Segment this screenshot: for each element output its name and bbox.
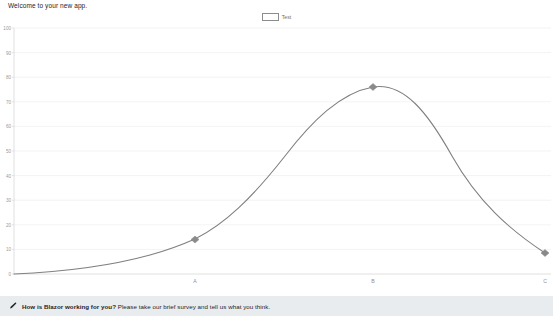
svg-text:80: 80 xyxy=(6,75,12,80)
svg-text:50: 50 xyxy=(6,149,12,154)
chart-data-markers[interactable] xyxy=(191,84,549,257)
survey-question: How is Blazor working for you? xyxy=(22,303,116,310)
survey-text: How is Blazor working for you? Please ta… xyxy=(22,303,270,310)
svg-text:20: 20 xyxy=(6,223,12,228)
svg-text:90: 90 xyxy=(6,51,12,56)
line-chart: Test 100 90 80 70 60 50 40 xyxy=(0,8,553,292)
svg-text:B: B xyxy=(371,278,375,284)
svg-text:A: A xyxy=(193,278,197,284)
chart-x-tick-labels: A B C xyxy=(193,278,547,284)
survey-banner[interactable]: How is Blazor working for you? Please ta… xyxy=(0,296,553,316)
svg-text:70: 70 xyxy=(6,100,12,105)
survey-description: Please take our brief survey and tell us… xyxy=(116,303,270,310)
chart-plot-area: 100 90 80 70 60 50 40 30 20 10 0 xyxy=(0,8,553,292)
svg-text:40: 40 xyxy=(6,174,12,179)
pencil-icon xyxy=(9,302,17,310)
svg-text:0: 0 xyxy=(8,272,11,277)
svg-text:100: 100 xyxy=(3,26,11,31)
svg-text:30: 30 xyxy=(6,198,12,203)
chart-y-tick-labels: 100 90 80 70 60 50 40 30 20 10 0 xyxy=(3,26,11,277)
chart-series-line xyxy=(14,86,545,274)
svg-text:60: 60 xyxy=(6,124,12,129)
data-point-marker-b[interactable] xyxy=(369,84,377,91)
svg-text:C: C xyxy=(543,278,547,284)
chart-gridlines xyxy=(14,28,551,249)
svg-text:10: 10 xyxy=(6,247,12,252)
